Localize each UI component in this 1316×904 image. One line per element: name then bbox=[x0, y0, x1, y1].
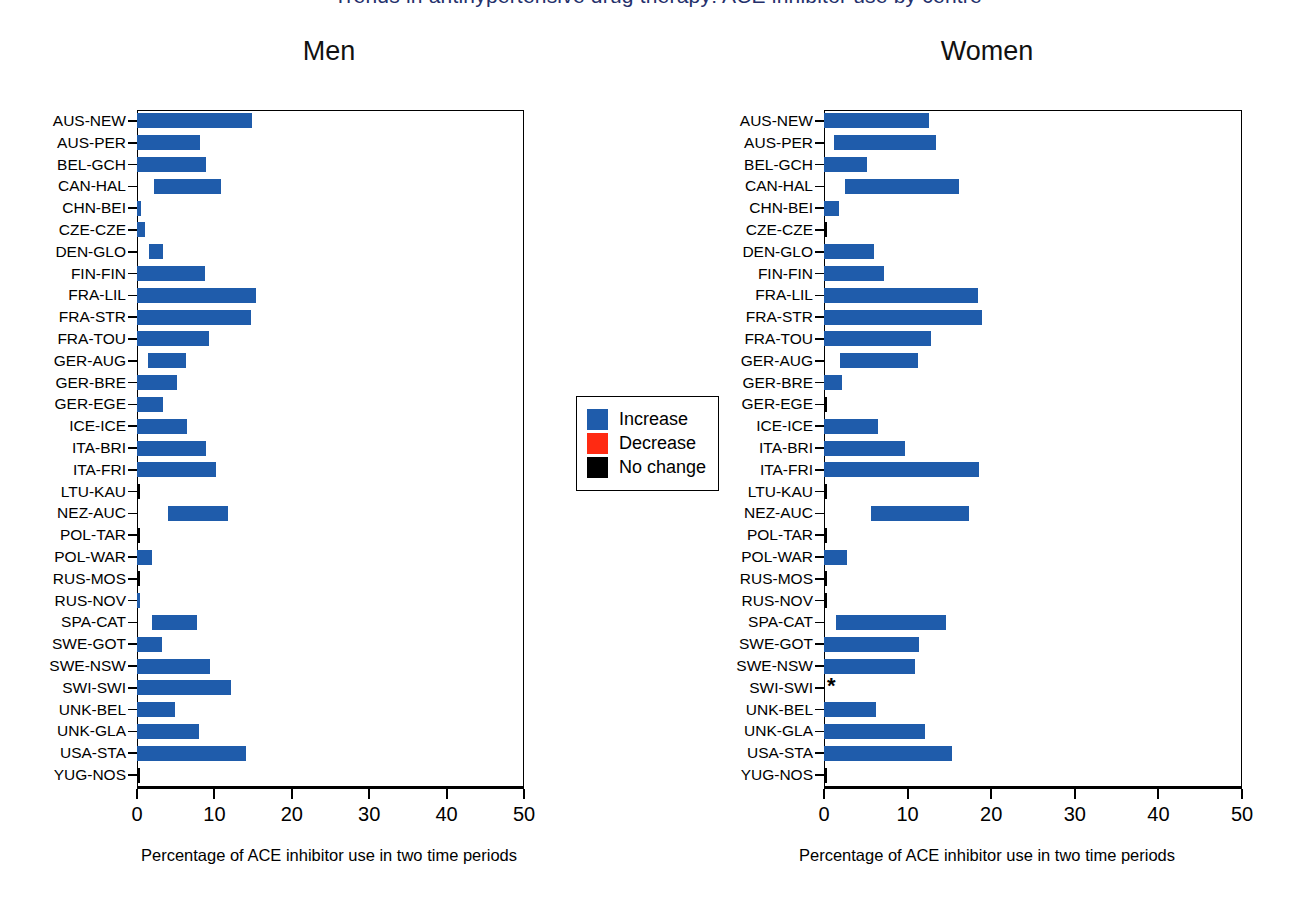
bar-men-nez-auc bbox=[168, 506, 228, 521]
y-axis-label-spa-cat: SPA-CAT bbox=[748, 614, 813, 630]
y-axis-label-chn-bei: CHN-BEI bbox=[749, 200, 813, 216]
x-tick-label-10: 10 bbox=[878, 803, 938, 826]
y-tick-den-glo bbox=[128, 251, 137, 253]
bar-men-ita-fri bbox=[137, 462, 216, 477]
y-tick-swi-swi bbox=[128, 687, 137, 689]
y-tick-den-glo bbox=[815, 251, 824, 253]
y-axis-label-bel-gch: BEL-GCH bbox=[57, 157, 126, 173]
y-tick-spa-cat bbox=[128, 622, 137, 624]
y-axis-label-aus-per: AUS-PER bbox=[57, 135, 126, 151]
x-tick-20 bbox=[291, 789, 293, 799]
bar-women-ger-bre bbox=[824, 375, 842, 390]
bar-men-ger-aug bbox=[148, 353, 186, 368]
y-tick-ger-ege bbox=[815, 404, 824, 406]
bar-women-swe-nsw bbox=[824, 659, 915, 674]
bar-men-cze-cze bbox=[137, 222, 145, 237]
y-axis-label-rus-nov: RUS-NOV bbox=[55, 593, 126, 609]
y-axis-label-ita-fri: ITA-FRI bbox=[760, 462, 813, 478]
bar-women-chn-bei bbox=[824, 201, 839, 216]
legend-swatch-increase-icon bbox=[587, 409, 608, 430]
bar-women-cze-cze bbox=[824, 222, 827, 237]
y-tick-chn-bei bbox=[128, 207, 137, 209]
y-axis-label-ger-ege: GER-EGE bbox=[742, 396, 813, 412]
y-tick-cze-cze bbox=[128, 229, 137, 231]
y-tick-bel-gch bbox=[128, 164, 137, 166]
y-tick-ita-bri bbox=[128, 447, 137, 449]
bar-women-ger-ege bbox=[824, 397, 827, 412]
y-tick-aus-new bbox=[128, 120, 137, 122]
y-tick-ger-ege bbox=[128, 404, 137, 406]
y-axis-label-unk-bel: UNK-BEL bbox=[59, 702, 126, 718]
bar-men-pol-war bbox=[137, 550, 152, 565]
y-axis-label-spa-cat: SPA-CAT bbox=[61, 614, 126, 630]
bar-men-pol-tar bbox=[137, 528, 140, 543]
y-axis-label-can-hal: CAN-HAL bbox=[58, 178, 126, 194]
y-tick-ita-fri bbox=[128, 469, 137, 471]
y-tick-aus-new bbox=[815, 120, 824, 122]
y-axis-label-ger-aug: GER-AUG bbox=[741, 353, 813, 369]
x-tick-30 bbox=[368, 789, 370, 799]
y-tick-unk-gla bbox=[128, 731, 137, 733]
y-axis-label-swe-nsw: SWE-NSW bbox=[49, 658, 126, 674]
y-axis-label-den-glo: DEN-GLO bbox=[55, 244, 126, 260]
bar-men-chn-bei bbox=[137, 201, 141, 216]
bar-women-ita-fri bbox=[824, 462, 979, 477]
legend-label-no-change: No change bbox=[619, 457, 706, 478]
x-tick-20 bbox=[990, 789, 992, 799]
bar-men-aus-new bbox=[137, 113, 252, 128]
legend-swatch-no-change-icon bbox=[587, 457, 608, 478]
legend-item-no-change: No change bbox=[587, 457, 706, 478]
bar-men-bel-gch bbox=[137, 157, 206, 172]
y-tick-yug-nos bbox=[128, 774, 137, 776]
bar-men-swe-nsw bbox=[137, 659, 210, 674]
x-tick-label-50: 50 bbox=[494, 803, 554, 826]
bar-women-pol-war bbox=[824, 550, 847, 565]
bar-women-ger-aug bbox=[840, 353, 919, 368]
y-tick-ice-ice bbox=[128, 425, 137, 427]
x-tick-50 bbox=[523, 789, 525, 799]
y-tick-pol-tar bbox=[815, 534, 824, 536]
bar-men-ita-bri bbox=[137, 441, 206, 456]
x-tick-label-50: 50 bbox=[1212, 803, 1272, 826]
y-tick-swe-nsw bbox=[815, 665, 824, 667]
y-axis-label-fra-tou: FRA-TOU bbox=[57, 331, 126, 347]
y-axis-label-aus-per: AUS-PER bbox=[744, 135, 813, 151]
y-axis-label-ger-bre: GER-BRE bbox=[55, 375, 126, 391]
x-tick-label-40: 40 bbox=[1128, 803, 1188, 826]
y-tick-unk-bel bbox=[815, 709, 824, 711]
y-axis-label-aus-new: AUS-NEW bbox=[740, 113, 813, 129]
panel-title-women: Women bbox=[658, 36, 1316, 67]
panel-title-men: Men bbox=[0, 36, 658, 67]
y-tick-aus-per bbox=[815, 142, 824, 144]
bar-women-unk-gla bbox=[824, 724, 925, 739]
x-tick-0 bbox=[823, 789, 825, 799]
bar-women-fra-str bbox=[824, 310, 982, 325]
y-tick-ltu-kau bbox=[128, 491, 137, 493]
y-axis-label-usa-sta: USA-STA bbox=[60, 745, 126, 761]
y-axis-label-fra-str: FRA-STR bbox=[746, 309, 813, 325]
y-tick-can-hal bbox=[128, 186, 137, 188]
y-tick-rus-nov bbox=[128, 600, 137, 602]
y-axis-label-pol-tar: POL-TAR bbox=[747, 527, 813, 543]
bar-men-rus-nov bbox=[137, 593, 140, 608]
y-tick-fra-tou bbox=[128, 338, 137, 340]
y-axis-label-yug-nos: YUG-NOS bbox=[741, 767, 813, 783]
x-tick-30 bbox=[1074, 789, 1076, 799]
y-axis-label-fra-lil: FRA-LIL bbox=[68, 287, 126, 303]
bar-men-ger-ege bbox=[137, 397, 163, 412]
x-tick-40 bbox=[446, 789, 448, 799]
bar-women-aus-new bbox=[824, 113, 929, 128]
y-axis-label-ice-ice: ICE-ICE bbox=[69, 418, 126, 434]
y-axis-label-swe-nsw: SWE-NSW bbox=[736, 658, 813, 674]
y-axis-label-ita-bri: ITA-BRI bbox=[759, 440, 813, 456]
x-tick-label-0: 0 bbox=[794, 803, 854, 826]
x-tick-0 bbox=[136, 789, 138, 799]
y-tick-cze-cze bbox=[815, 229, 824, 231]
y-axis-label-pol-war: POL-WAR bbox=[54, 549, 126, 565]
y-axis-label-fin-fin: FIN-FIN bbox=[758, 266, 813, 282]
x-axis-title-women: Percentage of ACE inhibitor use in two t… bbox=[658, 846, 1316, 865]
y-axis-label-chn-bei: CHN-BEI bbox=[62, 200, 126, 216]
bar-men-fin-fin bbox=[137, 266, 205, 281]
legend-label-decrease: Decrease bbox=[619, 433, 696, 454]
y-axis-label-cze-cze: CZE-CZE bbox=[746, 222, 813, 238]
